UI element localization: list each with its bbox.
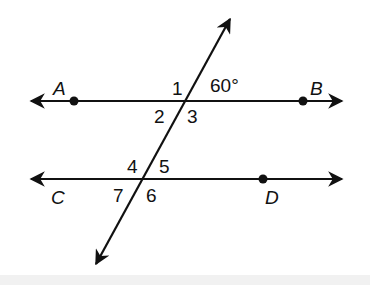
angle-4-label: 4 bbox=[127, 156, 138, 177]
label-c: C bbox=[51, 187, 65, 208]
angle-7-label: 7 bbox=[113, 185, 124, 206]
angle-given-label: 60° bbox=[210, 75, 239, 96]
label-a: A bbox=[52, 78, 66, 99]
angle-5-label: 5 bbox=[159, 156, 170, 177]
point-a-dot bbox=[70, 97, 79, 106]
angle-6-label: 6 bbox=[146, 185, 157, 206]
point-d-dot bbox=[259, 175, 268, 184]
angle-3-label: 3 bbox=[187, 106, 198, 127]
bottom-band bbox=[0, 275, 370, 285]
label-d: D bbox=[265, 187, 279, 208]
label-b: B bbox=[310, 78, 323, 99]
transversal bbox=[96, 19, 230, 264]
angle-1-label: 1 bbox=[172, 78, 183, 99]
parallel-lines-diagram: A B C D 1 60° 2 3 4 5 7 6 bbox=[0, 0, 370, 285]
point-b-dot bbox=[299, 97, 308, 106]
angle-2-label: 2 bbox=[154, 106, 165, 127]
